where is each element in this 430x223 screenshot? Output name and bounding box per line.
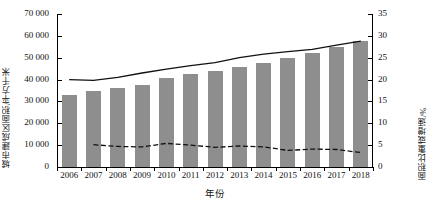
- y-tick-label-right: 30: [378, 31, 387, 40]
- growth-rate-line: [93, 143, 360, 152]
- y-tick-label-right: 5: [378, 140, 383, 149]
- x-axis-tick-labels: 2006200720082009201020112012201320142015…: [57, 170, 373, 183]
- x-tick-label: 2008: [109, 170, 127, 180]
- y-tick-label-left: 10 000: [24, 140, 49, 149]
- y-tick-label-left: 20 000: [24, 118, 49, 127]
- y-tick-label-left: 30 000: [24, 96, 49, 105]
- y-axis-label-right: 面积比重或增速/%: [417, 30, 429, 180]
- x-tick-label: 2007: [84, 170, 102, 180]
- y-tick-label-left: 60 000: [24, 31, 49, 40]
- x-tick-label: 2009: [133, 170, 151, 180]
- area-share-line: [69, 41, 361, 80]
- line-series: [57, 14, 373, 167]
- x-tick-label: 2018: [352, 170, 370, 180]
- y-tick-label-right: 35: [378, 9, 387, 18]
- x-tick-label: 2014: [255, 170, 273, 180]
- chart-container: 城市建成区面积/平方千米 面积比重或增速/% 010 00020 00030 0…: [0, 0, 430, 223]
- y-tick-label-right: 20: [378, 75, 387, 84]
- y-axis-label-left: 城市建成区面积/平方千米: [1, 18, 13, 168]
- x-axis-title: 年份: [0, 186, 430, 200]
- plot-area: [57, 14, 373, 167]
- x-tick-label: 2010: [157, 170, 175, 180]
- x-axis-line: [57, 167, 373, 168]
- x-tick: [373, 167, 374, 171]
- y-tick-label-right: 10: [378, 118, 387, 127]
- y-tick-label-right: 25: [378, 53, 387, 62]
- x-tick-label: 2006: [60, 170, 78, 180]
- y-tick-label-right: 15: [378, 96, 387, 105]
- x-tick-label: 2016: [303, 170, 321, 180]
- y-tick-label-left: 70 000: [24, 9, 49, 18]
- x-tick-label: 2011: [182, 170, 200, 180]
- x-tick-label: 2012: [206, 170, 224, 180]
- x-tick-label: 2013: [230, 170, 248, 180]
- y-tick-label-left: 50 000: [24, 53, 49, 62]
- x-tick-label: 2015: [279, 170, 297, 180]
- y-tick-label-left: 40 000: [24, 75, 49, 84]
- x-tick-label: 2017: [328, 170, 346, 180]
- y-tick-right: [368, 167, 372, 168]
- y-tick-label-left: 0: [45, 162, 50, 171]
- y-tick-left: [58, 167, 62, 168]
- y-tick-label-right: 0: [378, 162, 383, 171]
